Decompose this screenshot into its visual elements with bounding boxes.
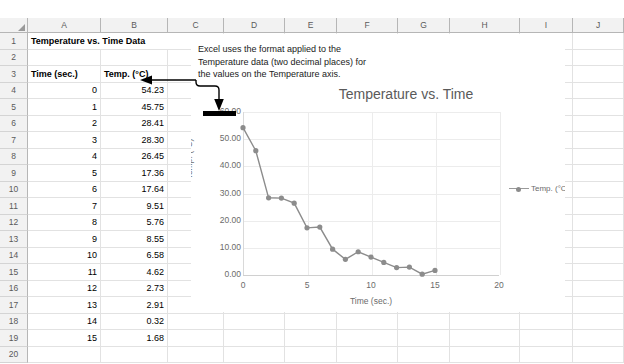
cell-H20[interactable] [450,347,520,364]
cell-B14[interactable]: 6.58 [101,248,168,265]
cell-B4[interactable]: 54.23 [101,83,168,100]
row-header-9[interactable]: 9 [0,165,28,182]
column-header-j[interactable]: J [573,18,624,33]
cell-B10[interactable]: 17.64 [101,182,168,199]
cell-F20[interactable] [337,347,398,364]
row-header-18[interactable]: 18 [0,314,28,331]
cell-F19[interactable] [337,330,398,347]
cell-J10[interactable] [573,182,624,199]
cell-B6[interactable]: 28.41 [101,116,168,133]
cell-J19[interactable] [573,330,624,347]
cell-J3[interactable] [573,66,624,83]
cell-B17[interactable]: 2.91 [101,297,168,314]
cell-G18[interactable] [398,314,450,331]
cell-J6[interactable] [573,116,624,133]
row-header-16[interactable]: 16 [0,281,28,298]
cell-C18[interactable] [168,314,224,331]
table-row[interactable] [28,347,624,364]
cell-B13[interactable]: 8.55 [101,231,168,248]
cell-E19[interactable] [285,330,337,347]
row-header-10[interactable]: 10 [0,182,28,199]
row-header-5[interactable]: 5 [0,99,28,116]
cell-A10[interactable]: 6 [28,182,101,199]
row-header-11[interactable]: 11 [0,198,28,215]
cell-B12[interactable]: 5.76 [101,215,168,232]
cell-A13[interactable]: 9 [28,231,101,248]
column-header-f[interactable]: F [337,18,398,33]
column-header-h[interactable]: H [450,18,520,33]
cell-A16[interactable]: 12 [28,281,101,298]
cell-G19[interactable] [398,330,450,347]
cell-B9[interactable]: 17.36 [101,165,168,182]
cell-A6[interactable]: 2 [28,116,101,133]
cell-B8[interactable]: 26.45 [101,149,168,166]
cell-A2[interactable] [28,50,101,67]
cell-J12[interactable] [573,215,624,232]
cell-I19[interactable] [520,330,573,347]
column-header-c[interactable]: C [168,18,224,33]
column-header-b[interactable]: B [101,18,168,33]
cell-D19[interactable] [224,330,285,347]
cell-J5[interactable] [573,99,624,116]
cell-B15[interactable]: 4.62 [101,264,168,281]
row-header-8[interactable]: 8 [0,149,28,166]
column-header-e[interactable]: E [285,18,337,33]
cell-B2[interactable] [101,50,168,67]
cell-H19[interactable] [450,330,520,347]
cell-B20[interactable] [101,347,168,364]
cell-E20[interactable] [285,347,337,364]
cell-B16[interactable]: 2.73 [101,281,168,298]
row-header-20[interactable]: 20 [0,347,28,364]
select-all-corner[interactable] [0,18,28,33]
row-header-4[interactable]: 4 [0,83,28,100]
cell-I20[interactable] [520,347,573,364]
cell-C19[interactable] [168,330,224,347]
column-header-d[interactable]: D [224,18,285,33]
row-header-1[interactable]: 1 [0,33,28,50]
column-header-g[interactable]: G [398,18,450,33]
cell-B19[interactable]: 1.68 [101,330,168,347]
cell-A5[interactable]: 1 [28,99,101,116]
cell-H18[interactable] [450,314,520,331]
cell-B5[interactable]: 45.75 [101,99,168,116]
cell-A14[interactable]: 10 [28,248,101,265]
cell-D20[interactable] [224,347,285,364]
cell-C20[interactable] [168,347,224,364]
chart-legend[interactable]: Temp. (°C) [509,184,565,193]
row-header-14[interactable]: 14 [0,248,28,265]
row-header-6[interactable]: 6 [0,116,28,133]
cell-A4[interactable]: 0 [28,83,101,100]
cell-A20[interactable] [28,347,101,364]
cell-J8[interactable] [573,149,624,166]
cell-A1[interactable]: Temperature vs. Time Data [28,33,168,50]
cell-A3[interactable]: Time (sec.) [28,66,101,83]
row-header-3[interactable]: 3 [0,66,28,83]
cell-J11[interactable] [573,198,624,215]
cell-J13[interactable] [573,231,624,248]
cell-A15[interactable]: 11 [28,264,101,281]
table-row[interactable]: 140.32 [28,314,624,331]
cell-J9[interactable] [573,165,624,182]
cell-J4[interactable] [573,83,624,100]
cell-J14[interactable] [573,248,624,265]
cell-A7[interactable]: 3 [28,132,101,149]
cell-A9[interactable]: 5 [28,165,101,182]
row-header-15[interactable]: 15 [0,264,28,281]
cell-B18[interactable]: 0.32 [101,314,168,331]
cell-A17[interactable]: 13 [28,297,101,314]
cell-E18[interactable] [285,314,337,331]
column-header-i[interactable]: I [520,18,573,33]
cell-J16[interactable] [573,281,624,298]
cell-B7[interactable]: 28.30 [101,132,168,149]
row-header-13[interactable]: 13 [0,231,28,248]
row-header-12[interactable]: 12 [0,215,28,232]
cell-I18[interactable] [520,314,573,331]
cell-J7[interactable] [573,132,624,149]
cell-A11[interactable]: 7 [28,198,101,215]
cell-J15[interactable] [573,264,624,281]
row-header-19[interactable]: 19 [0,330,28,347]
table-row[interactable]: 151.68 [28,330,624,347]
row-header-7[interactable]: 7 [0,132,28,149]
cell-J17[interactable] [573,297,624,314]
cell-J18[interactable] [573,314,624,331]
